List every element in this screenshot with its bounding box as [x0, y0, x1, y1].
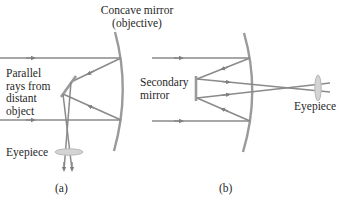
eyepiece-lens-a	[55, 149, 83, 155]
concave-mirror-label-line1: Concave mirror	[83, 4, 191, 17]
eyepiece-label-a: Eyepiece	[6, 146, 48, 159]
rays-label-line2: rays from	[6, 80, 50, 93]
secondary-label-line1: Secondary	[140, 76, 189, 89]
eyepiece-label-b: Eyepiece	[294, 100, 336, 113]
rays-label-line1: Parallel	[6, 67, 50, 80]
telescope-diagram	[0, 0, 340, 202]
concave-mirror-a	[114, 32, 123, 151]
caption-b: (b)	[219, 182, 232, 195]
parallel-rays-label: Parallel rays from distant object	[6, 67, 50, 117]
caption-a: (a)	[55, 182, 68, 195]
rays-label-line3: distant	[6, 92, 50, 105]
rays-label-line4: object	[6, 105, 50, 118]
reflected-ray-top-a	[71, 58, 121, 82]
eyepiece-lens-b	[315, 75, 321, 101]
concave-mirror-label-line2: (objective)	[83, 17, 191, 30]
concave-mirror-label: Concave mirror (objective)	[83, 4, 191, 29]
secondary-label-line2: mirror	[140, 89, 189, 102]
secondary-mirror-label: Secondary mirror	[140, 76, 189, 101]
flat-secondary-mirror-a	[61, 76, 76, 97]
